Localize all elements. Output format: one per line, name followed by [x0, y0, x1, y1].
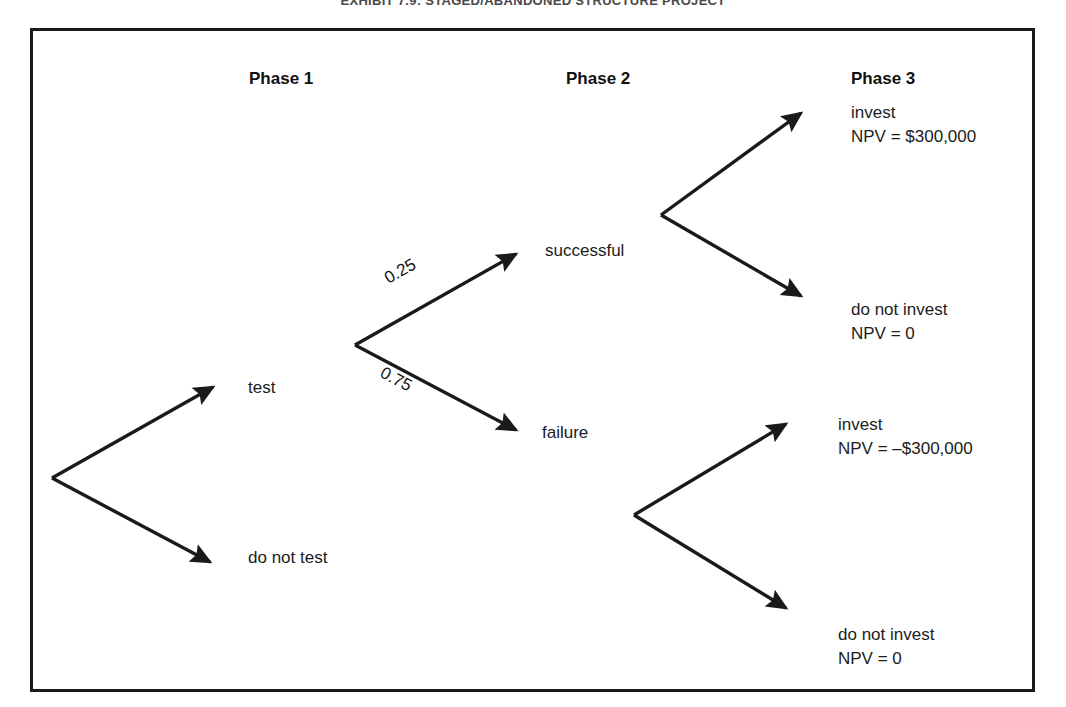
- node-label-do-not-test: do not test: [248, 546, 327, 569]
- phase-header-3: Phase 3: [851, 69, 915, 89]
- branch-successful-to-do-not-invest: [661, 215, 801, 296]
- leaf-1-npv: NPV = $300,000: [851, 125, 976, 149]
- phase-header-1: Phase 1: [249, 69, 313, 89]
- node-label-test: test: [248, 376, 275, 399]
- decision-tree-figure: EXHIBIT 7.9: STAGED/ABANDONED STRUCTURE …: [0, 0, 1066, 707]
- leaf-2-npv: NPV = 0: [851, 322, 947, 346]
- branch-failure-to-invest: [634, 424, 786, 515]
- leaf-label-2: do not invest NPV = 0: [851, 298, 947, 346]
- leaf-1-action: invest: [851, 101, 976, 125]
- phase-header-2: Phase 2: [566, 69, 630, 89]
- branch-test-to-failure: [355, 345, 516, 430]
- leaf-3-npv: NPV = –$300,000: [838, 437, 973, 461]
- leaf-label-1: invest NPV = $300,000: [851, 101, 976, 149]
- leaf-label-3: invest NPV = –$300,000: [838, 413, 973, 461]
- branch-root-to-do-not-test: [52, 478, 210, 562]
- node-label-failure: failure: [542, 421, 588, 444]
- branch-root-to-test: [52, 387, 213, 478]
- leaf-3-action: invest: [838, 413, 973, 437]
- leaf-4-action: do not invest: [838, 623, 934, 647]
- leaf-label-4: do not invest NPV = 0: [838, 623, 934, 671]
- node-label-successful: successful: [545, 239, 624, 262]
- branch-failure-to-do-not-invest: [634, 515, 786, 608]
- branch-test-to-successful: [355, 254, 516, 345]
- branch-successful-to-invest: [661, 113, 801, 215]
- leaf-4-npv: NPV = 0: [838, 647, 934, 671]
- leaf-2-action: do not invest: [851, 298, 947, 322]
